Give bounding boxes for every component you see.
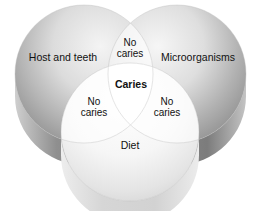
venn-diagram-graphic [0, 0, 261, 211]
venn-diagram: Host and teeth Microorganisms No caries … [0, 0, 261, 211]
